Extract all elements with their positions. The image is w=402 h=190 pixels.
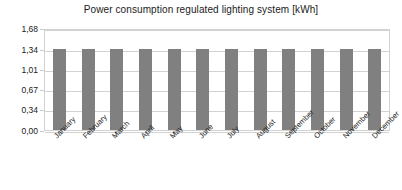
bar[interactable] xyxy=(254,49,267,130)
bar[interactable] xyxy=(196,49,209,130)
bar-slot xyxy=(246,30,275,130)
bar-slot xyxy=(274,30,303,130)
bar[interactable] xyxy=(110,49,123,130)
bar[interactable] xyxy=(53,49,66,130)
bar-slot xyxy=(131,30,160,130)
x-axis: JanuaryFebruaryMarchAprilMayJuneJulyAugu… xyxy=(44,131,390,190)
bar[interactable] xyxy=(139,49,152,130)
y-axis-tick-marks xyxy=(0,29,44,131)
bar-slot xyxy=(102,30,131,130)
bar[interactable] xyxy=(340,49,353,130)
bar-series xyxy=(45,30,389,130)
chart-title: Power consumption regulated lighting sys… xyxy=(0,4,402,15)
bar-slot xyxy=(160,30,189,130)
bar-slot xyxy=(188,30,217,130)
bar[interactable] xyxy=(168,49,181,130)
chart-container: Power consumption regulated lighting sys… xyxy=(0,0,402,190)
bar[interactable] xyxy=(225,49,238,130)
bar[interactable] xyxy=(282,49,295,130)
bar-slot xyxy=(217,30,246,130)
plot-area xyxy=(44,29,390,131)
bar[interactable] xyxy=(368,49,381,130)
bar[interactable] xyxy=(311,49,324,130)
bar-slot xyxy=(332,30,361,130)
bar[interactable] xyxy=(82,49,95,130)
